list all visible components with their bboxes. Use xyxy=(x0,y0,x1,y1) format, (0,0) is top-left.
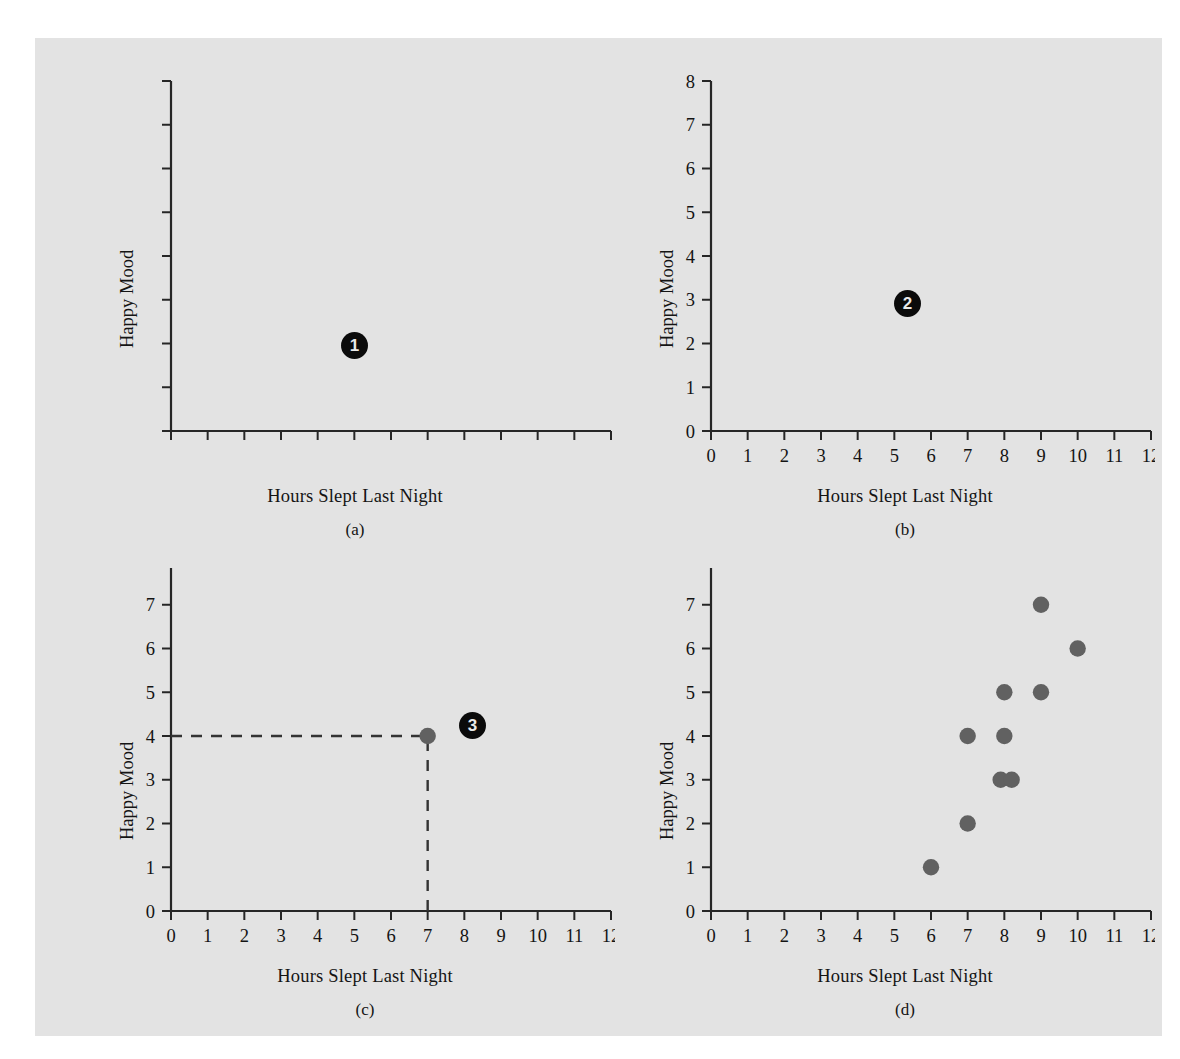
y-tick-label: 8 xyxy=(146,568,155,572)
data-point xyxy=(1033,684,1049,700)
panel-c-plot: 0123456789101112012345678 xyxy=(95,568,615,958)
x-tick-label: 4 xyxy=(313,926,322,946)
x-tick-label: 7 xyxy=(963,446,972,466)
x-tick-label: 1 xyxy=(203,926,212,946)
y-tick-label: 1 xyxy=(686,858,695,878)
y-tick-label: 5 xyxy=(146,683,155,703)
x-tick-label: 10 xyxy=(1068,926,1087,946)
x-tick-label: 3 xyxy=(816,446,825,466)
data-point xyxy=(1003,772,1019,788)
x-tick-label: 7 xyxy=(423,926,432,946)
data-point xyxy=(923,859,939,875)
y-tick-label: 1 xyxy=(686,378,695,398)
x-tick-label: 1 xyxy=(743,926,752,946)
panel-a-caption: (a) xyxy=(95,520,615,540)
x-tick-label: 10 xyxy=(528,926,547,946)
x-tick-label: 9 xyxy=(496,926,505,946)
badge-3: 3 xyxy=(459,712,486,739)
data-point xyxy=(996,728,1012,744)
y-tick-label: 5 xyxy=(686,203,695,223)
x-tick-label: 10 xyxy=(1068,446,1087,466)
y-tick-label: 8 xyxy=(686,72,695,92)
x-tick-label: 6 xyxy=(386,926,395,946)
badge-2: 2 xyxy=(894,290,921,317)
panel-c-x-axis-title: Hours Slept Last Night xyxy=(115,966,615,987)
y-tick-label: 2 xyxy=(686,334,695,354)
x-tick-label: 12 xyxy=(602,926,615,946)
panel-d-y-axis-title: Happy Mood xyxy=(657,742,678,840)
figure-page: Happy Mood Hours Slept Last Night (a) 1 … xyxy=(0,0,1180,1059)
y-tick-label: 7 xyxy=(686,115,695,135)
y-tick-label: 6 xyxy=(146,639,155,659)
panel-b: 0123456789101112012345678 Happy Mood Hou… xyxy=(635,58,1155,558)
x-tick-label: 0 xyxy=(166,926,175,946)
y-tick-label: 3 xyxy=(686,770,695,790)
y-tick-label: 0 xyxy=(686,422,695,442)
x-tick-label: 11 xyxy=(1105,446,1123,466)
x-tick-label: 8 xyxy=(1000,926,1009,946)
y-tick-label: 5 xyxy=(686,683,695,703)
x-tick-label: 12 xyxy=(1142,446,1155,466)
x-tick-label: 5 xyxy=(890,446,899,466)
x-tick-label: 7 xyxy=(963,926,972,946)
panel-a-y-axis-title: Happy Mood xyxy=(117,250,138,348)
y-tick-label: 3 xyxy=(146,770,155,790)
x-tick-label: 4 xyxy=(853,926,862,946)
y-tick-label: 0 xyxy=(686,902,695,922)
badge-1: 1 xyxy=(341,332,368,359)
panel-d: 0123456789101112012345678 Happy Mood Hou… xyxy=(635,568,1155,1038)
x-tick-label: 3 xyxy=(816,926,825,946)
x-tick-label: 0 xyxy=(706,446,715,466)
panel-c-caption: (c) xyxy=(115,1000,615,1020)
data-point xyxy=(1033,597,1049,613)
x-tick-label: 4 xyxy=(853,446,862,466)
data-point xyxy=(959,815,975,831)
panel-b-y-axis-title: Happy Mood xyxy=(657,250,678,348)
y-tick-label: 2 xyxy=(686,814,695,834)
x-tick-label: 8 xyxy=(460,926,469,946)
x-tick-label: 11 xyxy=(565,926,583,946)
y-tick-label: 6 xyxy=(686,639,695,659)
x-tick-label: 0 xyxy=(706,926,715,946)
x-tick-label: 11 xyxy=(1105,926,1123,946)
panel-b-plot: 0123456789101112012345678 xyxy=(635,58,1155,478)
y-tick-label: 3 xyxy=(686,290,695,310)
y-tick-label: 7 xyxy=(686,595,695,615)
data-point xyxy=(1069,640,1085,656)
y-tick-label: 6 xyxy=(686,159,695,179)
panel-c: 0123456789101112012345678 Happy Mood Hou… xyxy=(95,568,615,1038)
panel-c-y-axis-title: Happy Mood xyxy=(117,742,138,840)
panel-b-caption: (b) xyxy=(655,520,1155,540)
data-point xyxy=(959,728,975,744)
x-tick-label: 3 xyxy=(276,926,285,946)
panel-d-x-axis-title: Hours Slept Last Night xyxy=(655,966,1155,987)
y-tick-label: 0 xyxy=(146,902,155,922)
panel-b-x-axis-title: Hours Slept Last Night xyxy=(655,486,1155,507)
x-tick-label: 9 xyxy=(1036,926,1045,946)
data-point xyxy=(419,728,435,744)
x-tick-label: 2 xyxy=(240,926,249,946)
x-tick-label: 6 xyxy=(926,926,935,946)
y-tick-label: 7 xyxy=(146,595,155,615)
x-tick-label: 2 xyxy=(780,446,789,466)
x-tick-label: 6 xyxy=(926,446,935,466)
x-tick-label: 5 xyxy=(890,926,899,946)
panel-a-plot xyxy=(95,58,615,478)
y-tick-label: 4 xyxy=(686,727,695,747)
x-tick-label: 1 xyxy=(743,446,752,466)
y-tick-label: 2 xyxy=(146,814,155,834)
x-tick-label: 8 xyxy=(1000,446,1009,466)
y-tick-label: 4 xyxy=(146,727,155,747)
x-tick-label: 12 xyxy=(1142,926,1155,946)
y-tick-label: 8 xyxy=(686,568,695,572)
panel-d-plot: 0123456789101112012345678 xyxy=(635,568,1155,958)
y-tick-label: 4 xyxy=(686,247,695,267)
x-tick-label: 2 xyxy=(780,926,789,946)
figure-paper-background: Happy Mood Hours Slept Last Night (a) 1 … xyxy=(35,38,1162,1036)
panel-d-caption: (d) xyxy=(655,1000,1155,1020)
panel-a: Happy Mood Hours Slept Last Night (a) 1 xyxy=(95,58,615,558)
data-point xyxy=(996,684,1012,700)
x-tick-label: 9 xyxy=(1036,446,1045,466)
panel-a-x-axis-title: Hours Slept Last Night xyxy=(95,486,615,507)
y-tick-label: 1 xyxy=(146,858,155,878)
